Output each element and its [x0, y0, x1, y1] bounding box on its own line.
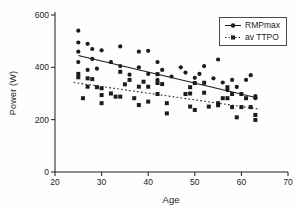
data-point-av-ttpo: [193, 108, 197, 112]
data-point-av-ttpo: [100, 93, 104, 97]
data-point-av-ttpo: [188, 92, 192, 96]
data-point-av-ttpo: [86, 85, 90, 89]
data-point-av-ttpo: [76, 75, 80, 79]
data-point-rmpmax: [160, 68, 164, 72]
data-point-av-ttpo: [225, 96, 229, 100]
data-point-av-ttpo: [100, 86, 104, 90]
data-point-rmpmax: [249, 73, 253, 77]
data-point-rmpmax: [235, 85, 239, 89]
data-point-rmpmax: [146, 49, 150, 53]
data-point-rmpmax: [86, 42, 90, 46]
scatter-figure: 2030405060700200400600 Power (W) Age RMP…: [0, 0, 302, 214]
data-point-av-ttpo: [160, 82, 164, 86]
data-point-av-ttpo: [123, 82, 127, 86]
data-point-rmpmax: [179, 65, 183, 69]
data-point-av-ttpo: [100, 101, 104, 105]
legend-item: RMPmax: [224, 20, 280, 31]
data-point-av-ttpo: [90, 77, 94, 81]
legend-item: av TTPO: [224, 32, 280, 43]
trendline-rmpmax: [78, 56, 257, 98]
data-point-rmpmax: [244, 78, 248, 82]
data-point-av-ttpo: [253, 118, 257, 122]
data-point-av-ttpo: [146, 100, 150, 104]
data-point-rmpmax: [95, 67, 99, 71]
legend-marker-square-icon: [224, 33, 242, 42]
data-point-av-ttpo: [244, 96, 248, 100]
data-point-av-ttpo: [114, 95, 118, 99]
data-point-rmpmax: [90, 57, 94, 61]
x-tick-label: 40: [143, 177, 153, 187]
data-point-av-ttpo: [76, 72, 80, 76]
legend-label: av TTPO: [245, 32, 279, 43]
x-tick-label: 60: [237, 177, 247, 187]
data-point-av-ttpo: [165, 111, 169, 115]
legend-label: RMPmax: [245, 20, 280, 31]
data-point-av-ttpo: [202, 91, 206, 95]
data-point-av-ttpo: [156, 72, 160, 76]
data-point-rmpmax: [183, 70, 187, 74]
data-point-rmpmax: [76, 29, 80, 33]
data-point-av-ttpo: [183, 92, 187, 96]
data-point-av-ttpo: [207, 105, 211, 109]
data-point-av-ttpo: [235, 115, 239, 119]
data-point-rmpmax: [76, 60, 80, 64]
data-point-rmpmax: [202, 64, 206, 68]
data-point-av-ttpo: [132, 96, 136, 100]
legend: RMPmaxav TTPO: [219, 17, 287, 46]
data-point-av-ttpo: [142, 80, 146, 84]
x-tick-label: 20: [50, 177, 60, 187]
data-point-av-ttpo: [128, 78, 132, 82]
data-point-av-ttpo: [239, 92, 243, 96]
data-point-av-ttpo: [146, 85, 150, 89]
data-point-rmpmax: [193, 76, 197, 80]
data-point-rmpmax: [76, 50, 80, 54]
data-point-rmpmax: [137, 65, 141, 69]
data-point-av-ttpo: [137, 103, 141, 107]
data-point-rmpmax: [221, 80, 225, 84]
data-point-av-ttpo: [230, 105, 234, 109]
data-point-rmpmax: [155, 60, 159, 64]
data-point-av-ttpo: [193, 81, 197, 85]
data-point-rmpmax: [216, 57, 220, 61]
y-tick-label: 600: [35, 10, 49, 20]
data-point-av-ttpo: [86, 76, 90, 80]
data-point-rmpmax: [169, 74, 173, 78]
data-point-av-ttpo: [81, 96, 85, 100]
data-point-av-ttpo: [156, 81, 160, 85]
data-point-rmpmax: [109, 60, 113, 64]
y-axis-title: Power (W): [8, 71, 18, 115]
data-point-av-ttpo: [118, 95, 122, 99]
x-tick-label: 50: [190, 177, 200, 187]
data-point-av-ttpo: [225, 85, 229, 89]
y-tick-label: 200: [35, 115, 49, 125]
data-point-av-ttpo: [188, 85, 192, 89]
data-point-rmpmax: [197, 72, 201, 76]
data-point-av-ttpo: [239, 105, 243, 109]
data-point-rmpmax: [86, 68, 90, 72]
data-point-av-ttpo: [221, 96, 225, 100]
data-point-av-ttpo: [95, 85, 99, 89]
data-point-av-ttpo: [249, 105, 253, 109]
data-point-av-ttpo: [165, 101, 169, 105]
data-point-rmpmax: [118, 44, 122, 48]
x-tick-label: 30: [97, 177, 107, 187]
data-point-rmpmax: [100, 48, 104, 52]
data-point-av-ttpo: [109, 92, 113, 96]
x-axis-title: Age: [163, 194, 180, 205]
data-point-rmpmax: [118, 64, 122, 68]
data-point-av-ttpo: [188, 105, 192, 109]
data-point-av-ttpo: [156, 92, 160, 96]
data-point-av-ttpo: [137, 85, 141, 89]
data-point-rmpmax: [76, 40, 80, 44]
data-point-rmpmax: [127, 73, 131, 77]
data-point-rmpmax: [253, 96, 257, 100]
x-tick-label: 70: [283, 177, 293, 187]
data-point-rmpmax: [211, 76, 215, 80]
y-tick-label: 400: [35, 62, 49, 72]
data-point-av-ttpo: [253, 113, 257, 117]
data-point-rmpmax: [90, 47, 94, 51]
data-point-rmpmax: [146, 72, 150, 76]
data-point-av-ttpo: [202, 81, 206, 85]
data-point-av-ttpo: [216, 103, 220, 107]
y-tick-label: 0: [44, 167, 49, 177]
